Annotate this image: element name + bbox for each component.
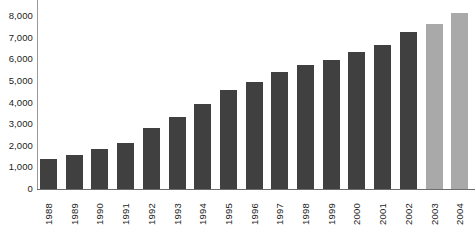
x-axis-tick-1989: 1989 [68,192,81,225]
bar-1996 [246,82,263,189]
y-axis-tick-1000: 1,000 [0,162,33,172]
x-axis-tick-1990: 1990 [93,192,106,225]
bar-2003 [426,24,443,189]
bar-2001 [374,45,391,189]
bar-1997 [271,72,288,189]
bar-2002 [400,32,417,189]
x-axis-tick-1998: 1998 [299,192,312,225]
y-axis-tick-0: 0 [0,184,33,194]
bar-1991 [117,143,134,189]
x-axis-tick-1995: 1995 [222,192,235,225]
y-axis-tick-3000: 3,000 [0,119,33,129]
bar-1995 [220,90,237,189]
x-axis-tick-2001: 2001 [376,192,389,225]
x-axis-line [37,189,475,190]
x-axis-tick-1997: 1997 [273,192,286,225]
bar-1990 [91,149,108,189]
y-axis-tick-7000: 7,000 [0,33,33,43]
bar-1992 [143,128,160,189]
x-axis-tick-1991: 1991 [119,192,132,225]
x-axis-tick-2000: 2000 [350,192,363,225]
bar-2004 [451,13,468,189]
x-axis-tick-1992: 1992 [145,192,158,225]
bar-1998 [297,65,314,189]
x-axis-tick-1994: 1994 [196,192,209,225]
x-axis-tick-1993: 1993 [171,192,184,225]
x-axis-tick-2003: 2003 [428,192,441,225]
plot-area [37,0,475,189]
bar-1999 [323,60,340,189]
y-axis-tick-2000: 2,000 [0,141,33,151]
bar-1989 [66,155,83,189]
y-axis-tick-4000: 4,000 [0,98,33,108]
y-axis-tick-5000: 5,000 [0,76,33,86]
x-axis-tick-1996: 1996 [248,192,261,225]
bar-1994 [194,104,211,189]
x-axis-tick-2002: 2002 [402,192,415,225]
bar-chart: 9,0008,0007,0006,0005,0004,0003,0002,000… [0,0,475,225]
y-axis-tick-8000: 8,000 [0,11,33,21]
x-axis-tick-1988: 1988 [42,192,55,225]
bar-2000 [348,52,365,189]
bar-1993 [169,117,186,189]
bar-1988 [40,159,57,189]
x-axis-tick-2004: 2004 [453,192,466,225]
x-axis-tick-1999: 1999 [325,192,338,225]
y-axis-tick-6000: 6,000 [0,54,33,64]
